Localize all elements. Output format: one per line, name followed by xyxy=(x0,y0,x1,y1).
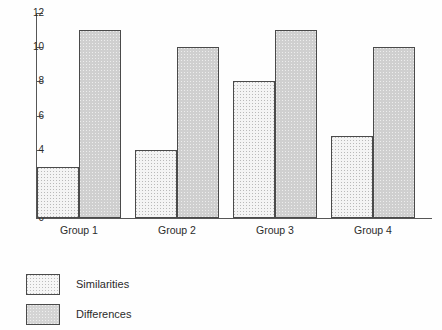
x-axis-group-label: Group 3 xyxy=(233,224,317,236)
bar-group xyxy=(233,12,317,218)
x-axis-group-label: Group 1 xyxy=(37,224,121,236)
x-axis-line xyxy=(36,218,432,219)
x-axis-group-label: Group 2 xyxy=(135,224,219,236)
legend-swatch-similarities xyxy=(26,274,60,295)
legend-item[interactable]: Differences xyxy=(26,302,286,326)
bar-similarities[interactable] xyxy=(135,150,177,218)
bar-differences[interactable] xyxy=(275,30,317,218)
bar-group xyxy=(135,12,219,218)
bar-similarities[interactable] xyxy=(37,167,79,218)
bar-differences[interactable] xyxy=(79,30,121,218)
bar-differences[interactable] xyxy=(177,47,219,218)
bar-similarities[interactable] xyxy=(233,81,275,218)
legend-item[interactable]: Similarities xyxy=(26,272,286,296)
bar-group xyxy=(37,12,121,218)
bar-similarities[interactable] xyxy=(331,136,373,218)
legend-swatch-differences xyxy=(26,304,60,325)
legend-label: Differences xyxy=(76,308,131,320)
chart-legend: SimilaritiesDifferences xyxy=(26,272,286,330)
plot-area: 121086420 Group 1Group 2Group 3Group 4 xyxy=(0,0,442,240)
bar-chart-figure: 121086420 Group 1Group 2Group 3Group 4 S… xyxy=(0,0,442,330)
x-axis-group-label: Group 4 xyxy=(331,224,415,236)
bar-group xyxy=(331,12,415,218)
bar-differences[interactable] xyxy=(373,47,415,218)
legend-label: Similarities xyxy=(76,278,129,290)
